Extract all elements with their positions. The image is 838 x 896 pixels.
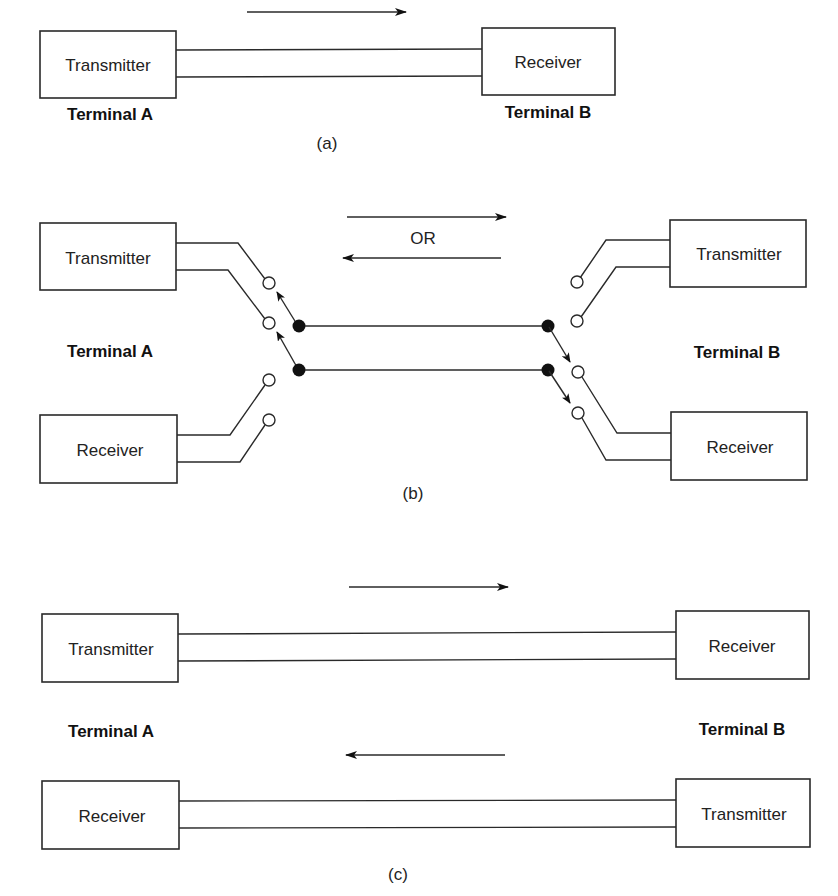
switch-contact-open [263, 414, 275, 426]
receiver-label: Receiver [706, 438, 773, 457]
switch-contact-open [572, 407, 584, 419]
terminal-b-label: Terminal B [505, 103, 592, 122]
wire [581, 267, 670, 317]
wire [177, 385, 265, 435]
terminal-a-label: Terminal A [67, 342, 153, 361]
line-wire-bottom [178, 659, 676, 661]
or-label: OR [410, 229, 436, 248]
receiver-box-terminal-b: Receiver [676, 611, 809, 679]
terminal-b-label: Terminal B [699, 720, 786, 739]
receiver-box-terminal-b: Receiver [482, 28, 615, 95]
switch-pivot [293, 364, 306, 377]
wire [177, 425, 265, 462]
figure-caption-b: (b) [403, 484, 424, 503]
figure-caption-a: (a) [317, 134, 338, 153]
switch-pivot [542, 364, 555, 377]
switch-arm [549, 371, 570, 403]
wire [176, 270, 268, 323]
receiver-label: Receiver [708, 637, 775, 656]
figure-c-full-duplex: Transmitter Receiver Terminal A Terminal… [42, 587, 810, 884]
figure-a-simplex: Transmitter Receiver Terminal A Terminal… [40, 12, 615, 153]
wire [176, 243, 268, 283]
transmitter-label: Transmitter [68, 640, 154, 659]
wire [582, 418, 671, 460]
receiver-box-terminal-b: Receiver [671, 412, 807, 480]
transmitter-box-terminal-b: Transmitter [676, 779, 810, 847]
transmitter-box-terminal-a: Transmitter [40, 31, 176, 98]
communication-modes-diagram: Transmitter Receiver Terminal A Terminal… [0, 0, 838, 896]
wire [580, 240, 670, 278]
transmitter-label: Transmitter [65, 56, 151, 75]
transmitter-box-terminal-a: Transmitter [40, 223, 176, 290]
switch-arm [549, 327, 570, 362]
receiver-box-terminal-a: Receiver [40, 415, 177, 483]
line-wire-top [178, 632, 676, 634]
switch-contact-open [571, 276, 583, 288]
line-wire-bottom [176, 76, 482, 77]
figure-caption-c: (c) [388, 865, 408, 884]
switch-contact-open [263, 277, 275, 289]
transmitter-box-terminal-a: Transmitter [42, 614, 178, 682]
switch-contact-open [572, 366, 584, 378]
receiver-box-terminal-a: Receiver [42, 781, 179, 849]
switch-arm [277, 332, 298, 369]
wire [582, 377, 671, 433]
transmitter-label: Transmitter [701, 805, 787, 824]
receiver-label: Receiver [514, 53, 581, 72]
transmitter-label: Transmitter [65, 249, 151, 268]
terminal-b-label: Terminal B [694, 343, 781, 362]
transmitter-label: Transmitter [696, 245, 782, 264]
switch-pivot [542, 320, 555, 333]
receiver-label: Receiver [76, 441, 143, 460]
terminal-a-label: Terminal A [67, 105, 153, 124]
switch-arm [277, 292, 298, 326]
figure-b-half-duplex: OR Transmitter Receiver [40, 217, 807, 503]
switch-contact-open [571, 315, 583, 327]
transmitter-box-terminal-b: Transmitter [670, 220, 806, 287]
line-wire-top [176, 49, 482, 50]
line-wire-bottom [179, 827, 676, 828]
switch-pivot [293, 320, 306, 333]
line-wire-top [179, 800, 676, 801]
switch-contact-open [263, 317, 275, 329]
switch-contact-open [263, 374, 275, 386]
terminal-a-label: Terminal A [68, 722, 154, 741]
receiver-label: Receiver [78, 807, 145, 826]
